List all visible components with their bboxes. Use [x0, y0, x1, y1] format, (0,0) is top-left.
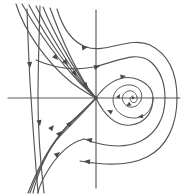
trajectory-incoming-lower-curve-a [38, 139, 84, 193]
phase-portrait-canvas [0, 0, 189, 195]
flow-arrow-spiral-left [106, 108, 113, 115]
trajectory-outer-orbit-bottom [80, 98, 177, 164]
axes-group [8, 10, 180, 188]
flow-arrow-left-vertical [27, 62, 33, 68]
phase-portrait-figure: Phase portrait Nonlinear system phase po… [0, 0, 189, 195]
flow-arrow-spiral-1 [138, 114, 144, 119]
flow-arrow-left-vertical-2 [36, 120, 42, 127]
trajectory-incoming-upper-curve-a [50, 8, 96, 98]
trajectory-spiral-inner-turn-1 [113, 85, 153, 118]
saddle-point [94, 96, 97, 99]
spiral-sink-point [132, 97, 135, 100]
flow-arrow-mid-orbit-top [94, 63, 101, 69]
trajectory-inner-orbit-bottom [96, 98, 153, 125]
arrowheads-group [27, 44, 143, 164]
flow-arrow-lower-left-3 [48, 123, 56, 131]
trajectory-spiral-inner-turn-2 [122, 91, 141, 107]
trajectory-left-vertical-curve-1 [27, 9, 38, 193]
trajectory-separatrix-upper-left-4 [43, 7, 96, 98]
trajectory-inner-orbit-top [96, 78, 153, 98]
